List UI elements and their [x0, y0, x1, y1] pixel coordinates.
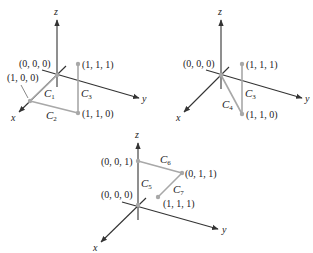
- diagram-1: z y x (0, 0, 0) (1, 0, 0) (1, 1, 0) (1, …: [7, 6, 147, 123]
- point-0-0-1: [136, 159, 140, 163]
- label-0-1-1: (0, 1, 1): [185, 168, 217, 180]
- label-c1: C1: [44, 87, 55, 101]
- label-c6: C6: [160, 153, 171, 167]
- label-origin: (0, 0, 0): [101, 189, 133, 201]
- curve-c2: [30, 101, 78, 113]
- z-axis-label: z: [217, 6, 222, 17]
- point-1-1-1: [156, 195, 160, 199]
- label-1-1-0: (1, 1, 0): [246, 109, 278, 121]
- point-0-1-1: [180, 171, 184, 175]
- label-0-0-1: (0, 0, 1): [101, 156, 133, 168]
- label-c2: C2: [46, 109, 57, 123]
- y-axis-label: y: [304, 93, 310, 104]
- point-origin: [136, 203, 140, 207]
- diagram-2: z y x (0, 0, 0) (1, 1, 0) (1, 1, 1) C4 C…: [175, 6, 310, 123]
- label-1-1-1: (1, 1, 1): [163, 198, 195, 210]
- label-origin: (0, 0, 0): [19, 58, 51, 70]
- point-origin: [219, 73, 223, 77]
- label-c5: C5: [141, 177, 152, 191]
- leader-line: [21, 85, 28, 98]
- z-axis-label: z: [53, 6, 58, 17]
- label-1-1-1: (1, 1, 1): [246, 59, 278, 71]
- x-axis-label: x: [175, 112, 181, 123]
- y-axis-label: y: [141, 93, 147, 104]
- point-1-1-0: [240, 112, 244, 116]
- diagram-canvas: z y x (0, 0, 0) (1, 0, 0) (1, 1, 0) (1, …: [0, 0, 313, 253]
- label-origin: (0, 0, 0): [183, 58, 215, 70]
- z-axis-label: z: [134, 129, 139, 140]
- label-1-1-1: (1, 1, 1): [82, 59, 114, 71]
- point-origin: [55, 73, 59, 77]
- label-c3: C3: [81, 87, 92, 101]
- diagram-3: z y x (0, 0, 0) (0, 0, 1) (0, 1, 1) (1, …: [92, 129, 227, 253]
- label-c4: C4: [222, 98, 233, 112]
- y-axis-label: y: [221, 224, 227, 235]
- label-c7: C7: [173, 183, 184, 197]
- label-1-0-0: (1, 0, 0): [7, 72, 39, 84]
- label-1-1-0: (1, 1, 0): [82, 108, 114, 120]
- x-axis-label: x: [92, 242, 98, 253]
- point-1-1-1: [240, 62, 244, 66]
- point-1-0-0: [28, 99, 32, 103]
- point-1-1-1: [76, 62, 80, 66]
- x-axis-label: x: [10, 112, 16, 123]
- label-c3: C3: [245, 87, 256, 101]
- point-1-1-0: [76, 111, 80, 115]
